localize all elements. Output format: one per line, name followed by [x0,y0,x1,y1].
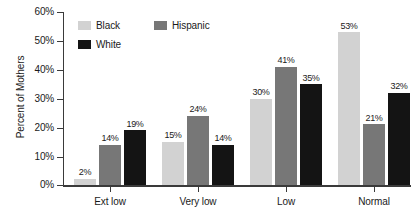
y-label-30: 30% [18,94,54,104]
y-tick-60 [57,12,63,13]
x-label-normal: Normal [330,196,415,208]
y-tick-10 [57,157,63,158]
bar-value-hispanic-ext-low: 14% [95,133,125,143]
bar-value-white-normal: 32% [384,81,414,91]
y-tick-30 [57,99,63,100]
bar-hispanic-ext-low [99,145,121,185]
bar-value-white-ext-low: 19% [120,119,150,129]
y-label-50: 50% [18,36,54,46]
bar-white-ext-low [124,130,146,185]
bar-value-hispanic-very-low: 24% [183,104,213,114]
x-tick-1 [198,187,199,192]
bar-value-white-very-low: 14% [208,133,238,143]
bar-black-very-low [162,142,184,185]
bar-white-normal [388,93,410,185]
bar-black-low [250,99,272,186]
bar-white-low [300,84,322,185]
x-label-very-low: Very low [154,196,242,208]
chart-legend: Black Hispanic White [78,19,248,53]
bar-value-black-low: 30% [246,87,276,97]
bar-value-white-low: 35% [296,73,326,83]
legend-label-hispanic: Hispanic [172,19,210,32]
bar-hispanic-very-low [187,116,209,185]
y-label-10: 10% [18,152,54,162]
y-tick-40 [57,70,63,71]
bar-chart: Percent of Mothers 60% 50% 40% 30% 20% 1… [0,0,415,220]
x-tick-0 [110,187,111,192]
bar-value-black-ext-low: 2% [70,167,100,177]
bar-value-hispanic-normal: 21% [359,113,389,123]
x-label-low: Low [242,196,330,208]
bar-hispanic-normal [363,124,385,185]
y-label-60: 60% [18,7,54,17]
y-tick-20 [57,128,63,129]
x-tick-3 [374,187,375,192]
legend-label-white: White [96,38,121,51]
x-axis-line [63,185,411,187]
x-label-ext-low: Ext low [66,196,154,208]
legend-swatch-white-icon [78,40,91,49]
bar-value-black-normal: 53% [334,21,364,31]
x-tick-2 [286,187,287,192]
y-tick-50 [57,41,63,42]
y-label-20: 20% [18,123,54,133]
bar-value-black-very-low: 15% [158,130,188,140]
bar-hispanic-low [275,67,297,185]
bar-white-very-low [212,145,234,185]
bar-value-hispanic-low: 41% [271,55,301,65]
legend-swatch-hispanic-icon [154,21,167,30]
legend-swatch-black-icon [78,21,91,30]
y-label-40: 40% [18,65,54,75]
legend-label-black: Black [96,19,120,32]
bar-black-normal [338,32,360,185]
y-label-0: 0% [18,180,54,190]
